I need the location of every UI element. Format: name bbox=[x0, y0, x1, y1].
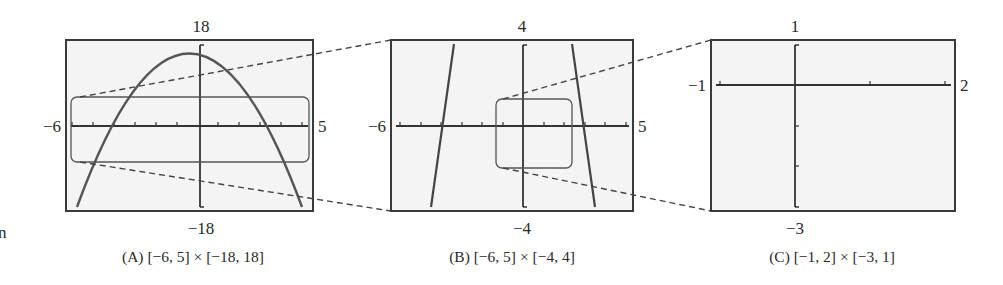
panel-c-xmin-label: −1 bbox=[688, 76, 706, 95]
figure-canvas: n 18 −18 −6 5 (A) [−6, 5] × [−18, 18] bbox=[0, 0, 1003, 285]
panel-c-xmax-label: 2 bbox=[960, 76, 969, 95]
panel-c-frame bbox=[711, 40, 955, 211]
left-text-fragment: n bbox=[0, 223, 7, 242]
panel-c-caption: (C) [−1, 2] × [−3, 1] bbox=[769, 248, 895, 266]
panel-c-ymin-label: −3 bbox=[786, 219, 804, 238]
panel-b-ymin-label: −4 bbox=[513, 219, 532, 238]
panel-b-caption: (B) [−6, 5] × [−4, 4] bbox=[449, 248, 575, 266]
panel-b: 4 −4 −6 5 (B) [−6, 5] × [−4, 4] bbox=[368, 17, 647, 266]
panel-a-xmax-label: 5 bbox=[318, 117, 327, 136]
panel-b-xmax-label: 5 bbox=[638, 117, 647, 136]
panel-a: 18 −18 −6 5 (A) [−6, 5] × [−18, 18] bbox=[43, 17, 327, 266]
panel-a-ymax-label: 18 bbox=[193, 17, 210, 36]
panel-c-ymax-label: 1 bbox=[791, 17, 800, 36]
panel-c: 1 −3 −1 2 (C) [−1, 2] × [−3, 1] bbox=[688, 17, 969, 266]
panel-a-caption: (A) [−6, 5] × [−18, 18] bbox=[122, 248, 264, 266]
panel-b-ymax-label: 4 bbox=[518, 17, 527, 36]
panel-a-ymin-label: −18 bbox=[188, 219, 215, 238]
panel-b-xmin-label: −6 bbox=[368, 117, 386, 136]
panel-a-xmin-label: −6 bbox=[43, 117, 61, 136]
